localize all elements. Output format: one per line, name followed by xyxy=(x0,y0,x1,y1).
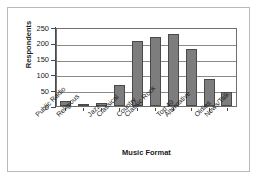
y-tick-150 xyxy=(51,60,55,61)
x-axis-title: Music Format xyxy=(56,148,237,157)
x-tick-1 xyxy=(83,108,84,111)
chart-figure: Respondents 250 200 150 100 50 0 xyxy=(0,0,259,180)
bar-classic-rock xyxy=(150,37,161,106)
y-tick-label-150: 150 xyxy=(23,56,49,64)
bar-top-40 xyxy=(168,34,179,106)
y-tick-200 xyxy=(51,44,55,45)
y-tick-250 xyxy=(51,28,55,29)
bar-religious xyxy=(78,104,89,106)
y-tick-label-50: 50 xyxy=(23,88,49,96)
y-tick-label-100: 100 xyxy=(23,72,49,80)
x-tick-9 xyxy=(227,108,228,111)
y-tick-0 xyxy=(51,107,55,108)
x-tick-7 xyxy=(191,108,192,111)
y-tick-label-200: 200 xyxy=(23,40,49,48)
y-tick-label-250: 250 xyxy=(23,25,49,33)
y-tick-100 xyxy=(51,75,55,76)
